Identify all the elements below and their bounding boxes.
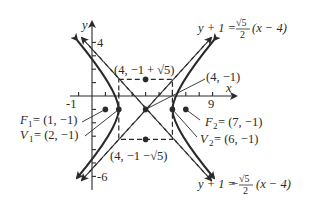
conjugate-top-point <box>143 77 149 83</box>
svg-text:2: 2 <box>209 138 214 148</box>
svg-text:= (6, −1): = (6, −1) <box>214 132 258 146</box>
svg-text:(x − 4): (x − 4) <box>252 21 287 35</box>
x-ticks <box>79 92 213 96</box>
x-tick-label-neg1: -1 <box>66 97 76 111</box>
svg-text:√5: √5 <box>239 173 250 184</box>
svg-text:2: 2 <box>213 121 218 131</box>
svg-text:2: 2 <box>243 185 248 196</box>
svg-text:√5: √5 <box>236 17 247 28</box>
svg-text:1: 1 <box>28 119 33 129</box>
svg-text:(x − 4): (x − 4) <box>256 177 291 191</box>
svg-text:−: − <box>231 177 238 191</box>
svg-text:V: V <box>20 128 29 142</box>
svg-text:y + 1 =: y + 1 = <box>196 21 236 35</box>
asymptote-positive-equation: y + 1 = √5 2 (x − 4) <box>196 17 287 40</box>
svg-text:= (2, −1): = (2, −1) <box>34 128 78 142</box>
svg-text:2: 2 <box>240 29 245 40</box>
svg-text:V: V <box>200 132 209 146</box>
y-axis-label: y <box>80 18 88 32</box>
x-tick-label-9: 9 <box>208 97 214 111</box>
hyperbola-diagram: x y -1 9 4 -6 (4, −1) (4, −1 + √5) <box>0 0 316 210</box>
vertex-v2-label: V 2 = (6, −1) <box>200 132 258 148</box>
center-label: (4, −1) <box>206 70 240 84</box>
conjugate-top-label: (4, −1 + √5) <box>114 63 175 77</box>
svg-text:1: 1 <box>29 134 34 144</box>
conjugate-bottom-label: (4, −1 −√5) <box>110 149 167 163</box>
conjugate-bottom-point <box>143 137 149 143</box>
focus-f1-label: F 1 = (1, −1) <box>19 113 77 129</box>
svg-text:= (1, −1): = (1, −1) <box>33 113 77 127</box>
y-tick-label-neg6: -6 <box>97 170 107 184</box>
y-tick-label-4: 4 <box>97 36 104 50</box>
asymptote-negative-equation: y + 1 = − √5 2 (x − 4) <box>196 173 291 196</box>
svg-text:F: F <box>19 113 28 127</box>
svg-text:F: F <box>204 115 213 129</box>
focus-f2-label: F 2 = (7, −1) <box>204 115 262 131</box>
vertex-v1-label: V 1 = (2, −1) <box>20 128 78 144</box>
svg-text:= (7, −1): = (7, −1) <box>218 115 262 129</box>
